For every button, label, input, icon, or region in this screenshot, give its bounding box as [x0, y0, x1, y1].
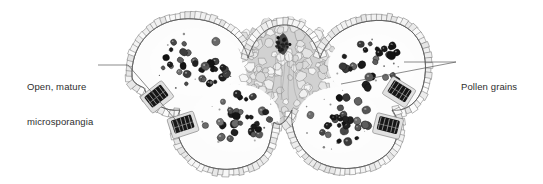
- label-line-1: Pollen grains: [461, 81, 517, 93]
- specimen-group: [125, 11, 433, 177]
- label-open-mature-microsporangia: Open, mature microsporangia: [27, 58, 93, 150]
- figure-container: Open, mature microsporangia Pollen grain…: [0, 0, 543, 184]
- label-line-1: Open, mature: [27, 81, 93, 93]
- label-line-2: microsporangia: [27, 116, 93, 128]
- label-pollen-grains: Pollen grains: [461, 58, 517, 116]
